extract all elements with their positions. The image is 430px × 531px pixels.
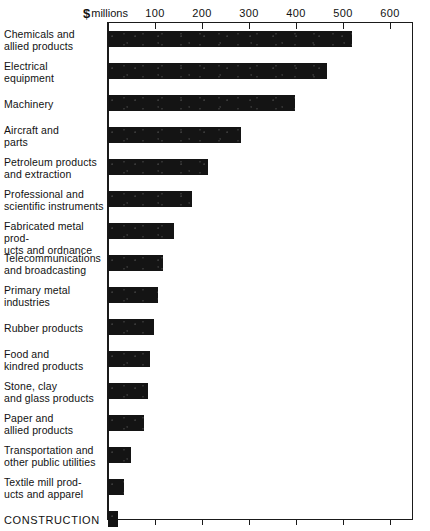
category-label: Textile mill prod-ucts and apparel	[4, 477, 105, 501]
bar	[108, 511, 118, 527]
category-label: Paper andallied products	[4, 413, 105, 437]
bar-row: Electricalequipment	[0, 60, 430, 92]
bar-row: Chemicals andallied products	[0, 28, 430, 60]
category-label: Aircraft andparts	[4, 125, 105, 149]
bar	[108, 31, 352, 47]
bar	[108, 447, 131, 463]
bar-row: Rubber products	[0, 316, 430, 348]
category-label: Machinery	[4, 99, 105, 111]
category-label: Professional andscientific instruments	[4, 189, 105, 213]
bar	[108, 159, 208, 175]
category-label: CONSTRUCTION	[4, 515, 105, 527]
bar	[108, 383, 148, 399]
bar-row: CONSTRUCTION	[0, 508, 430, 531]
bar	[108, 319, 154, 335]
bar	[108, 415, 144, 431]
bar-row: Aircraft andparts	[0, 124, 430, 156]
bar	[108, 95, 295, 111]
bar-row: Machinery	[0, 92, 430, 124]
bar-row: Food andkindred products	[0, 348, 430, 380]
bar-row: Stone, clayand glass products	[0, 380, 430, 412]
bar	[108, 63, 327, 79]
bar-row: Paper andallied products	[0, 412, 430, 444]
category-label: Chemicals andallied products	[4, 29, 105, 53]
category-label: Rubber products	[4, 323, 105, 335]
bar-row: Transportation andother public utilities	[0, 444, 430, 476]
bar-row: Professional andscientific instruments	[0, 188, 430, 220]
category-label: Transportation andother public utilities	[4, 445, 105, 469]
bar	[108, 351, 150, 367]
bar	[108, 223, 174, 239]
bar	[108, 479, 124, 495]
category-label: Primary metalindustries	[4, 285, 105, 309]
bar-row: Petroleum productsand extraction	[0, 156, 430, 188]
bar	[108, 255, 163, 271]
bar	[108, 287, 158, 303]
category-label: Food andkindred products	[4, 349, 105, 373]
category-label: Petroleum productsand extraction	[4, 157, 105, 181]
category-label: Telecommunicationsand broadcasting	[4, 253, 105, 277]
category-label: Electricalequipment	[4, 61, 105, 85]
bar-row: Textile mill prod-ucts and apparel	[0, 476, 430, 508]
category-label: Stone, clayand glass products	[4, 381, 105, 405]
bar-row: Fabricated metal prod-ucts and ordnance	[0, 220, 430, 252]
bar-row: Primary metalindustries	[0, 284, 430, 316]
bar	[108, 127, 241, 143]
bar-row: Telecommunicationsand broadcasting	[0, 252, 430, 284]
bar	[108, 191, 192, 207]
